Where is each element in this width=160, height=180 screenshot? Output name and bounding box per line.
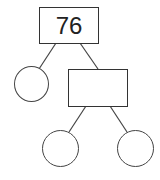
line-box-to-bottom-right-circle (110, 106, 127, 132)
bottom-right-circle-blank[interactable] (117, 130, 154, 167)
root-box: 76 (39, 7, 99, 44)
line-root-to-middle-box (80, 43, 98, 69)
left-circle-blank[interactable] (14, 66, 49, 102)
bottom-left-circle-blank[interactable] (42, 130, 79, 167)
root-value: 76 (56, 12, 83, 40)
line-root-to-left-circle (39, 43, 56, 69)
line-box-to-bottom-left-circle (69, 106, 86, 132)
middle-box-blank[interactable] (68, 69, 128, 107)
